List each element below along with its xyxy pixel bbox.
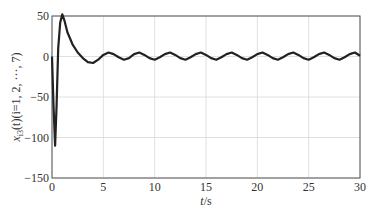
x-tick-label: 5 (100, 180, 106, 194)
x-tick-label: 10 (149, 180, 161, 194)
y-axis-ticks: −150−100−50050 (24, 9, 49, 185)
grid-lines (52, 16, 360, 178)
y-tick-label: −50 (30, 90, 49, 104)
x-tick-label: 25 (303, 180, 315, 194)
y-tick-label: 0 (43, 50, 49, 64)
y-tick-label: 50 (37, 9, 49, 23)
x-tick-label: 20 (251, 180, 263, 194)
y-axis-label: xi3(t)(i=1, 2, ···, 7) (9, 53, 25, 143)
x-axis-ticks: 051015202530 (49, 180, 366, 194)
y-tick-label: −100 (24, 131, 49, 145)
line-chart: 051015202530 −150−100−50050 t/s xi3(t)(i… (0, 0, 379, 212)
x-tick-label: 15 (200, 180, 212, 194)
x-tick-label: 0 (49, 180, 55, 194)
x-tick-label: 30 (354, 180, 366, 194)
x-axis-label: t/s (200, 194, 212, 208)
y-tick-label: −150 (24, 171, 49, 185)
